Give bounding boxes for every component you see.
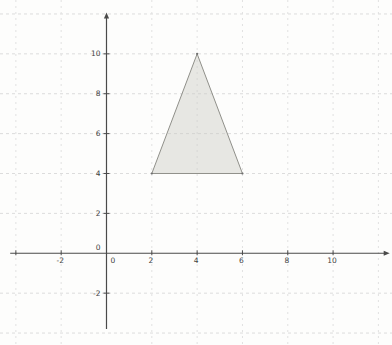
y-axis-arrow-icon <box>104 12 109 18</box>
y-axis-label--2: -2 <box>93 289 101 298</box>
y-axis-label-8: 8 <box>96 89 101 98</box>
x-axis-label-4: 4 <box>194 256 199 265</box>
x-axis-label-6: 6 <box>239 256 244 265</box>
y-axis-label-0: 0 <box>96 243 101 252</box>
triangle-shape[interactable] <box>152 54 243 174</box>
plot-svg: -20246810-20246810 <box>0 0 392 345</box>
coordinate-plane: -20246810-20246810 <box>0 0 392 345</box>
y-axis-label-2: 2 <box>96 209 101 218</box>
x-axis-label--2: -2 <box>56 256 64 265</box>
x-axis-label-0: 0 <box>111 256 116 265</box>
y-axis-label-6: 6 <box>96 129 101 138</box>
y-axis-label-10: 10 <box>91 49 101 58</box>
y-axis-label-4: 4 <box>96 169 101 178</box>
x-axis-arrow-icon <box>384 251 390 256</box>
triangle-vertex-0[interactable] <box>151 172 153 174</box>
triangle-vertex-2[interactable] <box>196 53 198 55</box>
triangle-vertex-1[interactable] <box>241 172 243 174</box>
x-axis-label-10: 10 <box>327 256 337 265</box>
x-axis-label-2: 2 <box>148 256 153 265</box>
x-axis-label-8: 8 <box>284 256 289 265</box>
